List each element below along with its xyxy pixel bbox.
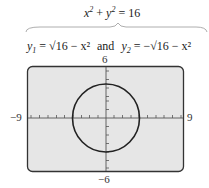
ymax-label: 6	[102, 53, 108, 65]
ymin-label: −6	[98, 173, 110, 185]
xmax-label: 9	[187, 111, 193, 123]
brace-and-graph	[0, 0, 209, 188]
xmin-label: −9	[10, 111, 22, 123]
graph-window	[28, 67, 184, 172]
brace-icon	[26, 23, 207, 32]
equation-split: y1 = √16 − x² and y2 = −√16 − x²	[27, 39, 191, 55]
